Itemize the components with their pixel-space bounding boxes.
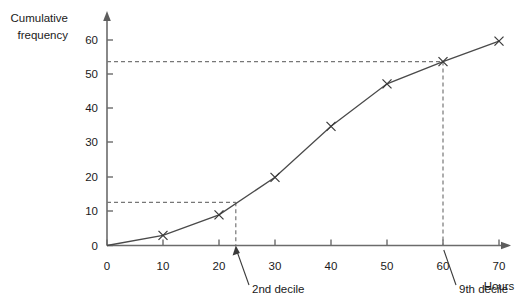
data-point-30 bbox=[271, 173, 280, 182]
data-point-40 bbox=[327, 122, 336, 131]
data-point-50 bbox=[383, 79, 392, 88]
x-axis: 0 10 20 30 40 50 60 70 Hours bbox=[104, 240, 515, 293]
y-tick-label-50: 50 bbox=[85, 68, 98, 80]
x-tick-label-10: 10 bbox=[157, 260, 170, 272]
second-decile-label: 2nd decile bbox=[252, 283, 304, 295]
y-axis-title: Cumulative frequency bbox=[10, 12, 68, 41]
x-tick-label-70: 70 bbox=[493, 260, 506, 272]
data-point-markers bbox=[159, 37, 504, 240]
chart-svg: 60 50 40 30 20 10 0 Cumulative frequency… bbox=[0, 0, 523, 306]
x-tick-label-30: 30 bbox=[269, 260, 282, 272]
y-axis: 60 50 40 30 20 10 0 bbox=[85, 11, 113, 252]
cumulative-frequency-curve bbox=[107, 41, 499, 245]
x-axis-arrow-icon bbox=[501, 242, 511, 250]
x-tick-label-0: 0 bbox=[104, 260, 110, 272]
second-decile-arrow-icon bbox=[233, 246, 240, 256]
data-point-70 bbox=[495, 37, 504, 46]
y-tick-label-10: 10 bbox=[85, 205, 98, 217]
y-axis-arrow-icon bbox=[103, 11, 111, 21]
y-axis-title-line2: frequency bbox=[17, 29, 68, 41]
y-tick-label-60: 60 bbox=[85, 34, 98, 46]
ninth-decile-guide bbox=[107, 62, 443, 246]
y-tick-label-20: 20 bbox=[85, 171, 98, 183]
ninth-decile-annotation: 9th decile bbox=[444, 250, 508, 295]
y-tick-label-0: 0 bbox=[92, 240, 98, 252]
x-tick-label-40: 40 bbox=[325, 260, 338, 272]
y-axis-title-line1: Cumulative bbox=[10, 12, 68, 24]
data-point-20 bbox=[215, 210, 224, 219]
ninth-decile-label: 9th decile bbox=[459, 283, 508, 295]
x-tick-label-20: 20 bbox=[213, 260, 226, 272]
y-tick-label-30: 30 bbox=[85, 136, 98, 148]
second-decile-leader-line bbox=[237, 250, 250, 285]
x-tick-label-50: 50 bbox=[381, 260, 394, 272]
second-decile-guide bbox=[107, 202, 236, 245]
y-tick-label-40: 40 bbox=[85, 102, 98, 114]
cumulative-frequency-chart: 60 50 40 30 20 10 0 Cumulative frequency… bbox=[0, 0, 523, 306]
